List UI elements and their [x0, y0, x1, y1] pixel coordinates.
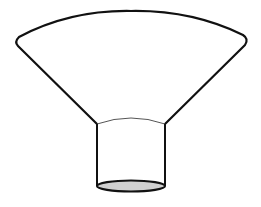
funnel-diagram [0, 0, 261, 207]
funnel-illustration [0, 0, 261, 207]
funnel-cone [16, 11, 246, 124]
neck-rim-arc [97, 118, 165, 124]
spout-opening [97, 181, 165, 192]
